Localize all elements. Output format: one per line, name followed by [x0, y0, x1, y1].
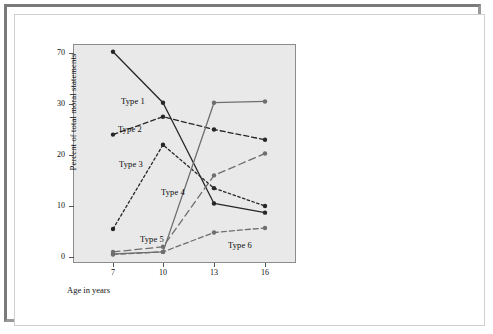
data-point	[212, 230, 216, 234]
data-point	[161, 245, 165, 249]
data-point	[263, 138, 267, 142]
y-tick-label: 20	[43, 151, 65, 159]
data-point	[111, 132, 115, 136]
series-label-type-5: Type 5	[140, 234, 164, 244]
y-tick-label: 10	[43, 202, 65, 210]
data-point	[212, 101, 216, 105]
series-label-type-1: Type 1	[121, 96, 145, 106]
data-point	[263, 99, 267, 103]
series-label-type-4: Type 4	[161, 187, 185, 197]
series-layer	[111, 50, 267, 257]
x-tick-mark	[113, 263, 114, 267]
line-chart: 010203070 7101316 Type 1Type 2Type 3Type…	[0, 0, 493, 334]
data-point	[111, 50, 115, 54]
x-axis-title: Age in years	[67, 285, 110, 295]
plot-svg	[73, 44, 296, 263]
y-tick-label: 0	[43, 253, 65, 261]
data-point	[111, 252, 115, 256]
series-line	[113, 145, 265, 229]
data-point	[263, 151, 267, 155]
series-label-type-6: Type 6	[228, 240, 252, 250]
series-type-3	[111, 143, 267, 232]
data-point	[212, 186, 216, 190]
y-axis-title: Percent of total moral statements	[68, 12, 78, 212]
data-point	[161, 250, 165, 254]
x-tick-mark	[163, 263, 164, 267]
data-point	[161, 143, 165, 147]
data-point	[212, 201, 216, 205]
data-point	[212, 127, 216, 131]
data-point	[161, 101, 165, 105]
data-point	[263, 210, 267, 214]
x-tick-label: 13	[199, 269, 229, 277]
x-tick-label: 16	[250, 269, 280, 277]
series-label-type-2: Type 2	[118, 124, 142, 134]
y-tick-label: 30	[43, 100, 65, 108]
data-point	[161, 115, 165, 119]
data-point	[263, 226, 267, 230]
x-tick-mark	[265, 263, 266, 267]
series-label-type-3: Type 3	[119, 159, 143, 169]
x-tick-mark	[214, 263, 215, 267]
y-tick-label: 70	[43, 49, 65, 57]
data-point	[111, 227, 115, 231]
data-point	[263, 204, 267, 208]
x-tick-label: 7	[98, 269, 128, 277]
y-tick-mark	[69, 257, 74, 258]
x-tick-label: 10	[148, 269, 178, 277]
data-point	[212, 173, 216, 177]
